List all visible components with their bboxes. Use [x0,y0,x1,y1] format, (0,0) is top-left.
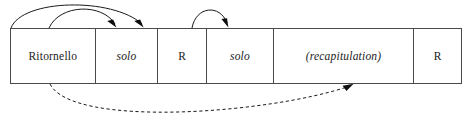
form-section-ritornello: Ritornello [11,29,96,83]
form-section-recapitulation: (recapitulation) [274,29,414,83]
form-section-r-1: R [158,29,207,83]
arrow-head-icon [343,84,354,91]
arrow-head-icon [107,19,116,27]
form-section-label: R [178,50,186,62]
connector-ritornello-to-solo2 [49,9,116,28]
form-section-solo-2: solo [207,29,274,83]
arrow-head-icon [134,20,143,28]
form-section-row: Ritornello solo R solo (recapitulation) … [10,28,462,84]
ritornello-form-diagram: Ritornello solo R solo (recapitulation) … [0,0,472,118]
arc-path [11,5,142,28]
arc-path [192,10,227,28]
connector-ritornello-to-R1-outer [11,5,144,28]
form-section-label: (recapitulation) [306,50,382,62]
arc-path [49,9,115,28]
form-section-label: solo [116,50,136,62]
form-section-solo-1: solo [96,29,159,83]
form-section-label: R [434,50,442,62]
form-section-r-2: R [414,29,461,83]
arc-path [50,84,350,112]
connector-R1-to-solo2 [192,10,228,28]
connector-ritornello-to-recap [50,84,354,112]
form-section-label: Ritornello [28,50,77,62]
arrow-head-icon [221,18,228,27]
form-section-label: solo [230,50,250,62]
